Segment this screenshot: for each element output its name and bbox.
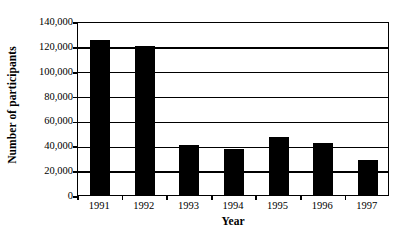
x-axis-tick-label: 1992 [133, 200, 154, 211]
x-axis-tick-label: 1997 [356, 200, 377, 211]
y-axis-tick-label: 20,000 [20, 166, 73, 176]
x-axis-tick-label: 1995 [267, 200, 288, 211]
gridline [78, 97, 388, 98]
bar [269, 137, 289, 195]
x-axis-tick-label: 1996 [312, 200, 333, 211]
bar [358, 160, 378, 195]
plot-area [77, 22, 389, 196]
gridline [78, 47, 388, 48]
x-axis-tick-label: 1994 [223, 200, 244, 211]
y-axis-tick-mark [73, 47, 78, 49]
x-axis-title: Year [77, 215, 389, 227]
bar-series [78, 23, 388, 195]
gridline [78, 147, 388, 148]
y-axis-tick-label: 0 [20, 191, 73, 201]
y-axis-tick-mark [73, 146, 78, 148]
y-axis-tick-labels: 020,00040,00060,00080,000100,000120,0001… [20, 0, 73, 250]
y-axis-tick-label: 60,000 [20, 116, 73, 126]
y-axis-tick-label: 40,000 [20, 141, 73, 151]
y-axis-tick-label: 120,000 [20, 42, 73, 52]
bar-chart: Number of participants 020,00040,00060,0… [0, 0, 412, 250]
x-axis-tick-labels: 1991199219931994199519961997 [77, 200, 389, 216]
y-axis-tick-mark [73, 22, 78, 24]
y-axis-tick-mark [73, 171, 78, 173]
y-axis-tick-mark [73, 122, 78, 124]
gridline [78, 171, 388, 172]
y-axis-tick-label: 80,000 [20, 92, 73, 102]
y-axis-tick-label: 140,000 [20, 17, 73, 27]
gridline [78, 122, 388, 123]
gridline [78, 72, 388, 73]
x-axis-tick-label: 1991 [89, 200, 110, 211]
y-axis-tick-mark [73, 97, 78, 99]
x-axis-tick-label: 1993 [178, 200, 199, 211]
bar [179, 145, 199, 195]
y-axis-title: Number of participants [6, 46, 18, 164]
y-axis-tick-mark [73, 72, 78, 74]
bar [313, 143, 333, 195]
y-axis-tick-label: 100,000 [20, 67, 73, 77]
